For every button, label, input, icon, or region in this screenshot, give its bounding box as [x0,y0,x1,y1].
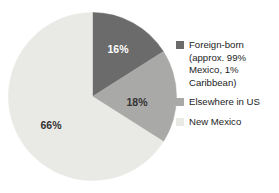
legend-color-swatch-icon [176,41,184,49]
pie-chart-svg: 16%18%66% [8,11,178,183]
legend-item[interactable]: Foreign-born (approx. 99% Mexico, 1% Car… [176,39,277,89]
legend-item-label: Elsewhere in US [189,96,260,109]
legend-item[interactable]: New Mexico [176,116,277,129]
legend-item-label: New Mexico [189,116,241,129]
pie-slice-value-label: 16% [107,43,129,55]
legend-item[interactable]: Elsewhere in US [176,96,277,109]
pie-chart-plot-area: 16%18%66% [8,11,178,183]
legend-color-swatch-icon [176,98,184,106]
chart-legend: Foreign-born (approx. 99% Mexico, 1% Car… [176,39,277,129]
pie-slice-value-label: 18% [126,96,148,108]
pie-chart-figure: 16%18%66% Foreign-born (approx. 99% Mexi… [0,0,279,193]
legend-item-label: Foreign-born (approx. 99% Mexico, 1% Car… [189,39,246,89]
legend-color-swatch-icon [176,118,184,126]
pie-slice-value-label: 66% [40,119,62,131]
pie-slices-group [8,13,176,181]
